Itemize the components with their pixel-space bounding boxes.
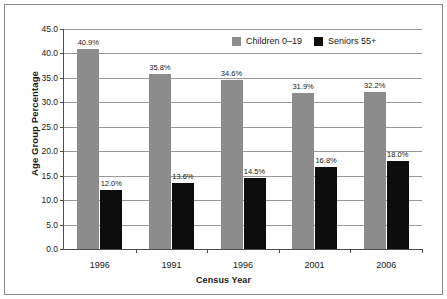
bar-value-label: 40.9% (78, 38, 99, 47)
bar-children[interactable] (221, 80, 243, 249)
x-axis-tick-label: 2006 (376, 260, 396, 270)
y-axis-tick (60, 53, 64, 54)
plot-area: 0.05.010.015.020.025.030.035.040.045.019… (63, 29, 422, 250)
y-axis-tick (60, 176, 64, 177)
bar-value-label: 18.0% (387, 150, 408, 159)
bar-value-label: 16.8% (315, 156, 336, 165)
y-axis-tick (60, 78, 64, 79)
y-axis-tick (60, 29, 64, 30)
bar-children[interactable] (364, 92, 386, 249)
y-axis-tick (60, 225, 64, 226)
gridline (64, 29, 422, 30)
y-axis-tick-label: 5.0 (46, 220, 58, 230)
bar-seniors[interactable] (244, 178, 266, 249)
gridline (64, 53, 422, 54)
gridline (64, 78, 422, 79)
x-axis-title: Census Year (0, 275, 447, 285)
y-axis-tick (60, 249, 64, 250)
legend-item-seniors[interactable]: Seniors 55+ (314, 36, 376, 46)
bar-value-label: 35.8% (149, 63, 170, 72)
x-axis-tick (422, 249, 423, 253)
x-axis-tick (207, 249, 208, 253)
y-axis-tick-label: 10.0 (41, 195, 58, 205)
bar-value-label: 31.9% (292, 82, 313, 91)
x-axis-tick-label: 1991 (161, 260, 181, 270)
bar-children[interactable] (149, 74, 171, 249)
bar-value-label: 13.6% (172, 172, 193, 181)
bar-value-label: 32.2% (364, 81, 385, 90)
y-axis-tick-label: 30.0 (41, 97, 58, 107)
y-axis-tick-label: 25.0 (41, 122, 58, 132)
x-axis-tick-label: 2001 (305, 260, 325, 270)
legend-label-seniors: Seniors 55+ (328, 36, 376, 46)
y-axis-title: Age Group Percentage (29, 44, 40, 204)
legend-swatch-children-icon (232, 37, 241, 46)
y-axis-tick-label: 20.0 (41, 146, 58, 156)
x-axis-tick-label: 1996 (233, 260, 253, 270)
y-axis-tick-label: 45.0 (41, 24, 58, 34)
chart-figure: Age Group Percentage 0.05.010.015.020.02… (0, 0, 447, 299)
bar-children[interactable] (292, 93, 314, 249)
bar-value-label: 14.5% (244, 167, 265, 176)
bar-seniors[interactable] (100, 190, 122, 249)
y-axis-tick-label: 15.0 (41, 171, 58, 181)
y-axis-tick (60, 151, 64, 152)
y-axis-tick (60, 102, 64, 103)
chart-legend: Children 0–19 Seniors 55+ (232, 36, 376, 46)
bar-seniors[interactable] (172, 183, 194, 249)
x-axis-tick (136, 249, 137, 253)
y-axis-tick (60, 127, 64, 128)
y-axis-tick-label: 35.0 (41, 73, 58, 83)
y-axis-tick-label: 40.0 (41, 48, 58, 58)
y-axis-tick (60, 200, 64, 201)
legend-swatch-seniors-icon (314, 37, 323, 46)
legend-label-children: Children 0–19 (246, 36, 302, 46)
bar-seniors[interactable] (387, 161, 409, 249)
x-axis-tick (279, 249, 280, 253)
legend-item-children[interactable]: Children 0–19 (232, 36, 302, 46)
y-axis-tick-label: 0.0 (46, 244, 58, 254)
bar-value-label: 34.6% (221, 69, 242, 78)
x-axis-tick (350, 249, 351, 253)
bar-children[interactable] (77, 49, 99, 249)
bar-seniors[interactable] (315, 167, 337, 249)
bar-value-label: 12.0% (101, 179, 122, 188)
x-axis-tick-label: 1996 (90, 260, 110, 270)
